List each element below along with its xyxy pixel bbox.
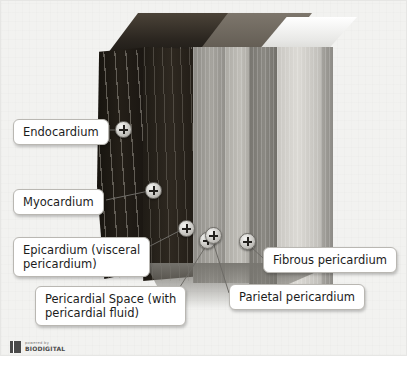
illustration-canvas: Endocardium Myocardium Epicardium (visce… xyxy=(0,0,407,356)
myocardium-fiber-pattern xyxy=(143,47,199,281)
marker-epicardium[interactable] xyxy=(178,220,195,237)
label-pericardial-space[interactable]: Pericardial Space (with pericardial flui… xyxy=(35,286,186,326)
biodigital-watermark: powered by BIODIGITAL xyxy=(10,341,65,353)
label-parietal-pericardium[interactable]: Parietal pericardium xyxy=(229,284,365,310)
marker-endocardium[interactable] xyxy=(115,121,132,138)
label-endocardium[interactable]: Endocardium xyxy=(13,119,109,145)
marker-myocardium[interactable] xyxy=(145,182,162,199)
marker-parietal-pericardium[interactable] xyxy=(205,227,222,244)
watermark-brand: BIODIGITAL xyxy=(25,346,65,352)
label-fibrous-pericardium[interactable]: Fibrous pericardium xyxy=(263,247,397,273)
label-myocardium[interactable]: Myocardium xyxy=(13,189,104,215)
diagram-stage: Endocardium Myocardium Epicardium (visce… xyxy=(0,0,407,376)
biodigital-logo-icon xyxy=(10,341,21,353)
marker-fibrous-pericardium[interactable] xyxy=(239,233,256,250)
label-epicardium[interactable]: Epicardium (visceral pericardium) xyxy=(13,237,150,277)
